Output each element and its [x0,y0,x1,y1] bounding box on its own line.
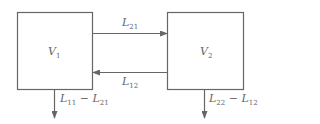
subscript: 22 [216,99,225,107]
subscript: 12 [129,82,138,90]
subscript: 12 [249,99,258,107]
subscript: 11 [67,99,76,107]
minus-operator: − [229,92,238,105]
minus-operator: − [80,92,89,105]
symbol: L [241,92,248,105]
outflow-label-v1: L11 − L21 [60,93,109,107]
subscript: 21 [100,99,109,107]
symbol: L [92,92,99,105]
subscript: 21 [129,23,138,31]
compartment-label-v2: V2 [200,46,212,60]
symbol: V [200,45,208,58]
symbol: V [48,45,56,58]
outflow-label-v2: L22 − L12 [209,93,258,107]
subscript: 2 [208,52,212,60]
subscript: 1 [56,52,60,60]
compartment-label-v1: V1 [48,46,60,60]
flow-label-l21: L21 [122,17,138,31]
flow-label-l12: L12 [122,76,138,90]
